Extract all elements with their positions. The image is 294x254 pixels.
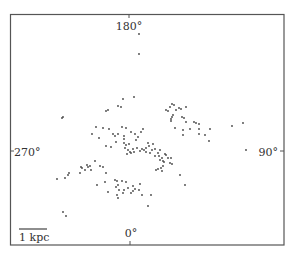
- data-point: [208, 140, 210, 142]
- data-point: [123, 142, 125, 144]
- data-point: [138, 53, 140, 55]
- data-point: [139, 183, 141, 185]
- data-point: [154, 155, 156, 157]
- data-point: [127, 149, 129, 151]
- scatter-plot: 180° 0° 270° 90° 1 kpc: [0, 0, 294, 254]
- data-point: [169, 106, 171, 108]
- data-point: [65, 215, 67, 217]
- data-point: [94, 160, 96, 162]
- data-point: [180, 108, 182, 110]
- data-point: [147, 205, 149, 207]
- label-90: 90°: [259, 146, 279, 159]
- data-point: [157, 152, 159, 154]
- data-point: [79, 172, 81, 174]
- data-point: [125, 127, 127, 129]
- data-point: [165, 154, 167, 156]
- data-point: [242, 122, 244, 124]
- data-point: [165, 109, 167, 111]
- data-point: [56, 178, 58, 180]
- data-point: [198, 133, 200, 135]
- data-point: [157, 168, 159, 170]
- data-point: [141, 148, 143, 150]
- data-point: [115, 186, 117, 188]
- data-point: [96, 184, 98, 186]
- data-point: [105, 172, 107, 174]
- data-point: [130, 192, 132, 194]
- data-point: [95, 126, 97, 128]
- data-point: [167, 157, 169, 159]
- data-point: [231, 125, 233, 127]
- scale-bar-label: 1 kpc: [19, 231, 49, 244]
- data-point: [130, 131, 132, 133]
- data-point: [183, 117, 185, 119]
- data-point: [162, 165, 164, 167]
- label-0: 0°: [125, 227, 138, 240]
- data-points: [56, 33, 247, 217]
- data-point: [134, 188, 136, 190]
- data-point: [62, 116, 64, 118]
- data-point: [185, 121, 187, 123]
- data-point: [132, 190, 134, 192]
- data-point: [158, 155, 160, 157]
- data-point: [170, 157, 172, 159]
- data-point: [193, 121, 195, 123]
- data-point: [117, 133, 119, 135]
- data-point: [130, 152, 132, 154]
- data-point: [149, 152, 151, 154]
- data-point: [184, 184, 186, 186]
- data-point: [115, 141, 117, 143]
- data-point: [137, 136, 139, 138]
- data-point: [125, 144, 127, 146]
- data-point: [145, 151, 147, 153]
- data-point: [123, 135, 125, 137]
- data-point: [133, 151, 135, 153]
- data-point: [170, 118, 172, 120]
- data-point: [152, 143, 154, 145]
- data-point: [133, 96, 135, 98]
- data-point: [173, 104, 175, 106]
- data-point: [154, 148, 156, 150]
- plot-frame: [11, 15, 285, 246]
- data-point: [105, 110, 107, 112]
- data-point: [204, 134, 206, 136]
- data-point: [102, 127, 104, 129]
- data-point: [139, 150, 141, 152]
- data-point: [140, 131, 142, 133]
- data-point: [116, 180, 118, 182]
- data-point: [62, 211, 64, 213]
- data-point: [169, 162, 171, 164]
- data-point: [124, 147, 126, 149]
- data-point: [145, 147, 147, 149]
- data-point: [185, 106, 187, 108]
- data-point: [174, 127, 176, 129]
- data-point: [179, 174, 181, 176]
- data-point: [126, 153, 128, 155]
- data-point: [105, 145, 107, 147]
- data-point: [98, 137, 100, 139]
- data-point: [128, 143, 130, 145]
- data-point: [147, 142, 149, 144]
- data-point: [112, 133, 114, 135]
- data-point: [136, 147, 138, 149]
- data-point: [104, 181, 106, 183]
- data-point: [114, 135, 116, 137]
- data-point: [175, 109, 177, 111]
- data-point: [107, 109, 109, 111]
- data-point: [114, 179, 116, 181]
- data-point: [87, 166, 89, 168]
- data-point: [195, 122, 197, 124]
- data-point: [125, 181, 127, 183]
- data-point: [161, 170, 163, 172]
- data-point: [182, 129, 184, 131]
- data-point: [167, 110, 169, 112]
- data-point: [209, 128, 211, 130]
- data-point: [182, 134, 184, 136]
- data-point: [110, 146, 112, 148]
- data-point: [64, 177, 66, 179]
- data-point: [155, 169, 157, 171]
- data-point: [90, 169, 92, 171]
- data-point: [117, 105, 119, 107]
- data-point: [89, 165, 91, 167]
- data-point: [123, 138, 125, 140]
- data-point: [138, 189, 140, 191]
